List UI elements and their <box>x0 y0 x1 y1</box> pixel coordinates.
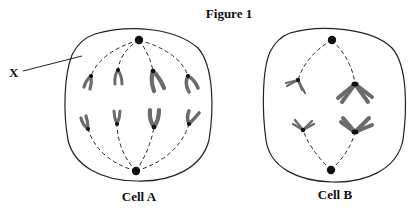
cell-a-label: Cell A <box>122 189 157 204</box>
cell-a-chromosome <box>186 74 198 92</box>
figure-1: Figure 1 X <box>0 0 416 214</box>
cell-b-chromosome <box>338 82 372 103</box>
cell-a-chromosome <box>115 68 122 84</box>
cell-b-membrane <box>263 28 405 182</box>
cell-b-chromosome <box>293 120 314 132</box>
cell-a-chromosome <box>150 110 159 129</box>
cell-a-chromosome <box>84 74 93 89</box>
label-x-leader-line <box>23 56 82 71</box>
figure-title: Figure 1 <box>206 6 252 21</box>
cell-a-chromosome <box>81 116 90 131</box>
cell-b: Cell B <box>263 28 405 202</box>
cell-a-top-centrosome <box>135 36 143 44</box>
cell-a-chromosome <box>151 69 164 91</box>
cell-b-chromosome <box>341 118 372 135</box>
cell-a-chromosome <box>114 111 120 126</box>
cell-a-chromosome <box>187 111 199 126</box>
cell-a: Cell A <box>65 29 212 204</box>
cell-a-spindle-fibres <box>88 40 189 171</box>
structure-label-x: X <box>9 65 19 80</box>
cell-b-top-centrosome <box>328 36 336 44</box>
cell-b-label: Cell B <box>318 187 353 202</box>
cell-a-membrane <box>65 29 212 181</box>
cell-b-spindle-fibres <box>298 40 355 170</box>
cell-b-bottom-centrosome <box>327 166 335 174</box>
cell-b-chromosome <box>286 78 305 93</box>
cell-a-bottom-centrosome <box>132 167 140 175</box>
